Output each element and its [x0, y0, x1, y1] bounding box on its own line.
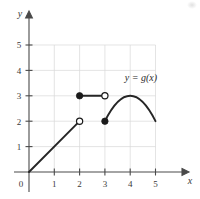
scan-artifact: [187, 1, 197, 9]
function-graph-plot: 1 2 3 4 5 1 2 3 4 5 0 x y y = g(x): [0, 0, 200, 199]
x-tick-label-2: 2: [77, 179, 82, 189]
y-tick-label-2: 2: [17, 117, 22, 127]
closed-point-3-2: [102, 118, 108, 124]
graph-figure: 1 2 3 4 5 1 2 3 4 5 0 x y y = g(x): [0, 0, 200, 199]
x-axis-label: x: [187, 175, 193, 186]
open-point-3-3: [102, 93, 108, 99]
y-tick-label-5: 5: [17, 40, 22, 50]
y-tick-label-3: 3: [17, 91, 22, 101]
endpoint-markers-group: [76, 93, 108, 125]
y-axis-arrowhead: [26, 11, 33, 18]
origin-label: 0: [19, 179, 24, 189]
x-tick-label-5: 5: [153, 179, 158, 189]
y-tick-label-4: 4: [17, 66, 22, 76]
axes-group: [14, 11, 189, 192]
x-tick-labels-group: 1 2 3 4 5: [52, 179, 158, 189]
closed-point-2-3: [76, 93, 82, 99]
x-tick-label-1: 1: [52, 179, 57, 189]
y-axis-label: y: [17, 8, 23, 19]
y-tick-label-1: 1: [17, 142, 22, 152]
graph-curves-group: [29, 96, 156, 172]
open-point-2-2: [77, 118, 83, 124]
curve-label: y = g(x): [124, 72, 158, 84]
x-tick-label-4: 4: [128, 179, 133, 189]
y-tick-labels-group: 1 2 3 4 5: [17, 40, 22, 152]
x-tick-label-3: 3: [103, 179, 108, 189]
